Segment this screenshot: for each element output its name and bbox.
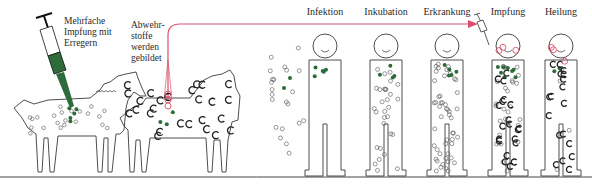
person-body (305, 60, 345, 176)
horse-pathogen (103, 109, 107, 113)
pathogen-active (506, 66, 510, 70)
horse-pathogen-active (68, 116, 72, 120)
horse-1-mane (96, 91, 116, 93)
airborne-pathogen (297, 69, 301, 73)
horse-antibody (209, 98, 215, 105)
pathogen-active (499, 71, 503, 75)
horse-pathogen (30, 126, 34, 130)
airborne-pathogen (280, 127, 284, 131)
horse-antibody (186, 121, 192, 128)
pathogen-particle (445, 138, 449, 142)
horse-antibody (218, 115, 224, 122)
horse-2-outline (120, 70, 240, 172)
horse-pathogen-active (165, 122, 169, 126)
airborne-pathogen (278, 136, 282, 140)
pathogen-active (512, 68, 516, 72)
horse-pathogen (64, 119, 68, 123)
person-illness (427, 34, 467, 176)
airborne-pathogen (269, 55, 273, 59)
airborne-pathogen (270, 98, 274, 102)
pathogen-active (388, 64, 392, 68)
airborne-pathogen-active (288, 76, 292, 80)
horse-antibody (124, 82, 130, 89)
horse-pathogen (78, 110, 82, 114)
airborne-pathogen (268, 69, 272, 73)
horse-antibody (199, 117, 205, 124)
serum-antibody (165, 103, 171, 109)
pathogen-active (496, 65, 500, 69)
horse-pathogen (59, 105, 63, 109)
pathogen-active (447, 67, 451, 71)
horse-pathogen (105, 126, 109, 130)
horse-pathogen-active (67, 106, 71, 110)
pathogen-active (443, 63, 447, 67)
airborne-pathogen (283, 65, 287, 69)
airborne-pathogen (297, 121, 301, 125)
stage-title-recovery: Heilung (526, 6, 592, 17)
horse-pathogen (42, 126, 46, 130)
pathogen-active (502, 65, 506, 69)
airborne-pathogen (296, 46, 300, 50)
horse-antibody (125, 90, 131, 97)
injection-label: Mehrfache Impfung mit Erregern (64, 16, 112, 49)
horse-antibody (204, 126, 210, 133)
horse-pathogen (60, 111, 64, 115)
antibodies-label: Abwehr- stoffe werden gebildet (131, 20, 165, 64)
pathogen-active (392, 74, 396, 78)
airborne-pathogen (302, 119, 306, 123)
horse-pathogen (74, 120, 78, 124)
horse-pathogen (59, 126, 63, 130)
pathogen-active (314, 65, 318, 69)
horse-pathogen (52, 114, 56, 118)
pathogen-active (454, 70, 458, 74)
pathogen-active (514, 75, 518, 79)
horse-pathogen-active (158, 120, 162, 124)
airborne-pathogen (274, 125, 278, 129)
horse-antibody (225, 96, 231, 103)
small-syringe-icon (474, 13, 489, 45)
airborne-pathogen (287, 151, 291, 155)
horse-pathogen (101, 123, 105, 127)
horse-pathogen (86, 112, 90, 116)
horse-pathogen-active (74, 107, 78, 111)
airborne-pathogen (291, 90, 295, 94)
horse-antibody (137, 97, 143, 104)
pathogen-active (378, 73, 382, 77)
horse-antibody (226, 81, 232, 88)
airborne-pathogen (270, 92, 274, 96)
pathogen-active (324, 68, 328, 72)
horse-pathogen-active (171, 110, 175, 114)
pathogen-active (450, 73, 454, 77)
person-recovery (541, 34, 581, 176)
horse-antibody (212, 132, 218, 139)
person-head (496, 34, 520, 58)
person-head (435, 34, 459, 58)
person-body (427, 60, 467, 176)
horse-pathogen-active (72, 112, 76, 116)
person-head (374, 34, 398, 58)
stage-title-incubation: Inkubation (351, 6, 421, 17)
person-infection (305, 34, 345, 176)
horse-pathogen (89, 105, 93, 109)
horse-pathogen (56, 121, 60, 125)
person-head (313, 34, 337, 58)
pathogen-active (552, 69, 556, 73)
pathogen-active (313, 74, 317, 78)
stage-title-illness: Erkrankung (412, 6, 482, 17)
horse-antibody (177, 120, 183, 127)
horse-antibody (133, 106, 139, 113)
horse-1-outline (14, 72, 146, 172)
horse-antibody (148, 90, 154, 97)
airborne-pathogen (284, 142, 288, 146)
person-incubation (366, 34, 406, 176)
arrow-head (468, 20, 478, 28)
stage-title-infection: Infektion (290, 6, 360, 17)
airborne-pathogen-active (282, 86, 286, 90)
horse-antibody (196, 96, 202, 103)
horse-pathogen (63, 123, 67, 127)
person-head (549, 34, 573, 58)
horse-pathogen (36, 116, 40, 120)
horse-pathogen (28, 132, 32, 136)
horse-pathogen (98, 115, 102, 119)
horse-antibody (189, 87, 195, 94)
